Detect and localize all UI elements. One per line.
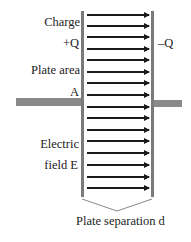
area-symbol-label: A (70, 86, 79, 99)
plate-separation-label: Plate separation d (76, 215, 165, 228)
negative-plate (151, 11, 154, 197)
electric-field-lines (87, 15, 149, 188)
minus-q-label: –Q (158, 37, 173, 50)
right-wire (152, 100, 182, 107)
separation-bracket (82, 199, 152, 211)
field-e-label: field E (44, 159, 78, 172)
electric-label: Electric (40, 138, 79, 151)
left-wire (16, 98, 82, 106)
plate-area-label: Plate area (31, 64, 80, 77)
positive-plate (81, 11, 84, 197)
charge-label: Charge (44, 16, 80, 29)
plus-q-label: +Q (63, 37, 79, 50)
capacitor-diagram: Charge +Q –Q Plate area A Electric field… (0, 0, 191, 242)
